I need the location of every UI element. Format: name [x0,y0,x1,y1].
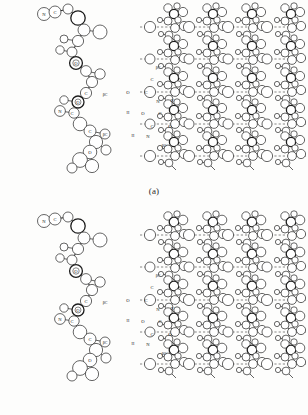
atom-label-c: C [70,319,73,324]
atom-label-o: O [126,298,130,303]
panel-b-sheet-lattice: βC C O C N H H O C C O H N βC [126,211,308,378]
atom-label-c: C [144,298,147,303]
atom-label-beta-c: βC [103,300,108,305]
atom-label-h: H [171,307,174,311]
atom-label-c: C [150,285,153,290]
panel-a-canvas: N C O O C C βC N C βC O [0,0,308,180]
panel-b-single-chain: N C O O C C βC N C βC O [38,212,112,381]
atom-label-c: C [150,77,153,82]
panel-a-single-chain: N C O O C C βC N C βC O [38,4,112,173]
atom-label-o: O [141,319,145,324]
panel-a: N C O O C C βC N C βC O [0,0,308,207]
figure-root: N C O O C C βC N C βC O [0,0,308,415]
lattice-chain [274,3,305,170]
atom-label-c: C [84,299,87,304]
atom-label-c: C [70,111,73,116]
atom-label-o: O [141,111,145,116]
atom-label-n: N [146,342,150,347]
atom-label-h: H [132,342,135,346]
panel-a-caption: (a) [0,186,308,196]
atom-label-c: C [158,111,161,116]
panel-a-sheet-lattice: βC C O C N H H O C C O H N βC [126,3,308,170]
atom-label-beta-c: βC [103,132,108,137]
atom-label-beta-c: βC [156,65,161,70]
atom-label-beta-c: βC [162,143,167,148]
atom-label-h: H [171,99,174,103]
atom-label-beta-c: βC [103,92,108,97]
atom-label-c: C [88,129,91,134]
atom-label-c: C [88,337,91,342]
panel-b: N C O O C C βC N C βC O [0,207,308,415]
panel-b-canvas: N C O O C C βC N C βC O [0,207,308,387]
atom-label-o: O [126,90,130,95]
atom-label-n: N [146,134,150,139]
atom-label-c: C [150,332,153,337]
atom-label-beta-c: βC [103,340,108,345]
atom-label-h: H [132,134,135,138]
atom-label-c: C [84,91,87,96]
atom-label-c: C [144,90,147,95]
lattice-chain [274,211,305,378]
atom-label-h: H [127,319,130,323]
atom-label-h: H [127,111,130,115]
atom-label-c: C [53,10,56,15]
atom-label-c: C [53,217,56,222]
atom-label-c: C [150,124,153,129]
atom-label-beta-c: βC [162,351,167,356]
atom-label-c: C [158,319,161,324]
atom-label-beta-c: βC [156,273,161,278]
